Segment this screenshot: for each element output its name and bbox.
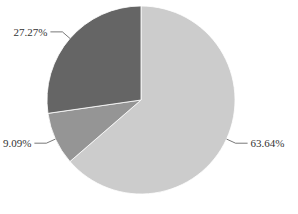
slice-label: 63.64% xyxy=(251,137,285,149)
pie-slice xyxy=(47,6,141,113)
slice-label: 9.09% xyxy=(3,137,31,149)
slice-label: 27.27% xyxy=(13,26,47,38)
leader-line xyxy=(227,139,248,143)
leader-line xyxy=(34,139,55,143)
pie-slices xyxy=(47,6,235,194)
leader-line xyxy=(50,32,70,39)
pie-chart: 63.64%9.09%27.27% xyxy=(0,0,298,214)
